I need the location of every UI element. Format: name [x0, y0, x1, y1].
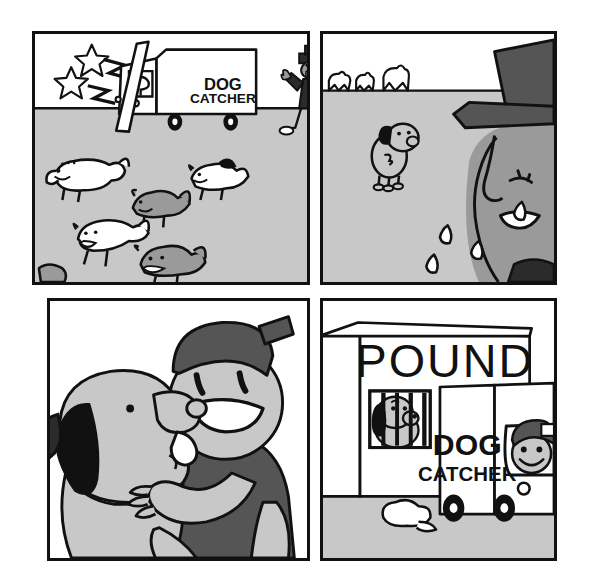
happy-dog [50, 371, 206, 558]
comic-page: DOG CATCHER [0, 0, 590, 588]
truck-sign-line-1: DOG [433, 428, 502, 461]
building-sign: POUND [356, 335, 535, 387]
panel-boy-hugging-dog [47, 298, 310, 561]
panel-pound-building: POUND [320, 298, 557, 561]
truck-sign-line-2: CATCHER [190, 91, 256, 106]
truck-sign-line-2: CATCHER [418, 462, 517, 485]
panel-dogs-escaping: DOG CATCHER [32, 31, 310, 285]
panel-dog-catcher-crying [320, 31, 557, 285]
smiling-driver [512, 420, 554, 473]
